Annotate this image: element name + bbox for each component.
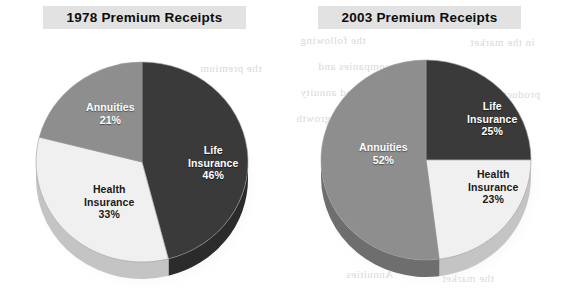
pie-slice-label-health-insurance: HealthInsurance33% <box>84 183 135 221</box>
pie-slice-label-annuities: Annuities21% <box>86 101 135 126</box>
label-line: Life <box>467 100 518 113</box>
pie-slice-label-health-insurance: HealthInsurance23% <box>468 168 519 206</box>
label-line: Life <box>188 144 239 157</box>
pie-2003: LifeInsurance25%HealthInsurance23%Annuit… <box>303 44 553 289</box>
chart-1978: 1978 Premium Receipts LifeInsurance46%He… <box>0 0 286 299</box>
label-line: 33% <box>84 208 135 221</box>
label-line: Annuities <box>86 101 135 114</box>
label-line: 25% <box>467 125 518 138</box>
label-line: Annuities <box>359 141 408 154</box>
pie-slice-label-annuities: Annuities52% <box>359 141 408 166</box>
pie-slice-label-life-insurance: LifeInsurance25% <box>467 100 518 138</box>
label-line: Insurance <box>188 157 239 170</box>
label-line: 52% <box>359 154 408 167</box>
chart-title-1978: 1978 Premium Receipts <box>43 6 246 29</box>
label-line: Insurance <box>468 181 519 194</box>
label-line: Insurance <box>467 113 518 126</box>
label-line: Health <box>468 168 519 181</box>
pie-1978: LifeInsurance46%HealthInsurance33%Annuit… <box>20 44 270 289</box>
chart-title-2003: 2003 Premium Receipts <box>318 6 521 29</box>
label-line: 21% <box>86 114 135 127</box>
pie-slice-label-life-insurance: LifeInsurance46% <box>188 144 239 182</box>
label-line: Health <box>84 183 135 196</box>
figure-canvas: the followingin the marketInsurance comp… <box>0 0 572 299</box>
pie-svg-2003 <box>303 44 553 289</box>
label-line: Insurance <box>84 196 135 209</box>
chart-2003: 2003 Premium Receipts LifeInsurance25%He… <box>286 0 572 299</box>
label-line: 46% <box>188 169 239 182</box>
label-line: 23% <box>468 193 519 206</box>
